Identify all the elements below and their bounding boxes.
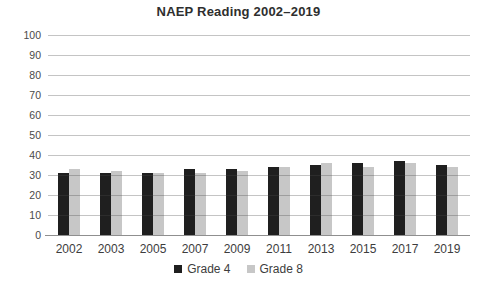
y-tick-10: 10 [7, 209, 41, 221]
gridline-80 [48, 75, 470, 76]
y-tick-80: 80 [7, 69, 41, 81]
x-tick-2017: 2017 [384, 242, 426, 256]
chart-title: NAEP Reading 2002–2019 [0, 4, 477, 19]
bar-grade-8-2017 [405, 163, 416, 235]
gridline-90 [48, 55, 470, 56]
y-tick-60: 60 [7, 109, 41, 121]
bar-grade-4-2002 [58, 173, 69, 235]
legend-item-grade-4: Grade 4 [174, 262, 230, 276]
bar-grade-4-2009 [226, 169, 237, 235]
naep-reading-bar-chart: NAEP Reading 2002–2019 Grade 4Grade 8 20… [0, 0, 477, 290]
bar-grade-8-2009 [237, 171, 248, 235]
y-tick-40: 40 [7, 149, 41, 161]
y-tick-70: 70 [7, 89, 41, 101]
bar-grade-8-2011 [279, 167, 290, 235]
legend: Grade 4Grade 8 [0, 262, 477, 276]
bar-grade-4-2017 [394, 161, 405, 235]
x-tick-2015: 2015 [342, 242, 384, 256]
x-axis-line [45, 235, 470, 236]
bar-grade-8-2013 [321, 163, 332, 235]
x-tick-2005: 2005 [132, 242, 174, 256]
x-tick-2009: 2009 [216, 242, 258, 256]
bar-grade-4-2005 [142, 173, 153, 235]
x-tick-2011: 2011 [258, 242, 300, 256]
gridline-70 [48, 95, 470, 96]
legend-item-grade-8: Grade 8 [247, 262, 303, 276]
gridline-40 [48, 155, 470, 156]
gridline-50 [48, 135, 470, 136]
bar-grade-8-2003 [111, 171, 122, 235]
bar-grade-8-2005 [153, 173, 164, 235]
gridline-100 [48, 35, 470, 36]
bar-grade-4-2007 [184, 169, 195, 235]
y-tick-90: 90 [7, 49, 41, 61]
bar-grade-8-2015 [363, 167, 374, 235]
y-tick-0: 0 [7, 229, 41, 241]
gridline-30 [48, 175, 470, 176]
legend-swatch-grade-8 [247, 265, 255, 273]
x-tick-2019: 2019 [426, 242, 468, 256]
bar-grade-4-2015 [352, 163, 363, 235]
bar-grade-8-2019 [447, 167, 458, 235]
x-tick-2013: 2013 [300, 242, 342, 256]
y-tick-50: 50 [7, 129, 41, 141]
y-tick-20: 20 [7, 189, 41, 201]
legend-swatch-grade-4 [174, 265, 182, 273]
y-tick-100: 100 [7, 29, 41, 41]
bar-grade-8-2002 [69, 169, 80, 235]
legend-label-grade-8: Grade 8 [260, 262, 303, 276]
y-tick-30: 30 [7, 169, 41, 181]
x-tick-2002: 2002 [48, 242, 90, 256]
gridline-10 [48, 215, 470, 216]
bar-grade-4-2003 [100, 173, 111, 235]
bar-grade-4-2011 [268, 167, 279, 235]
legend-label-grade-4: Grade 4 [187, 262, 230, 276]
gridline-60 [48, 115, 470, 116]
bar-grade-8-2007 [195, 173, 206, 235]
x-tick-2007: 2007 [174, 242, 216, 256]
x-tick-2003: 2003 [90, 242, 132, 256]
gridline-20 [48, 195, 470, 196]
